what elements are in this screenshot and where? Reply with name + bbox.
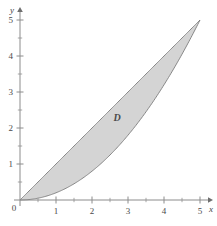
x-tick-label: 2: [90, 206, 95, 216]
y-tick-label: 3: [9, 87, 14, 97]
x-tick-label: 3: [126, 206, 131, 216]
x-tick-label: 5: [198, 206, 203, 216]
region-label-D: D: [113, 112, 121, 123]
y-tick-label: 4: [9, 51, 14, 61]
y-tick-label: 1: [9, 159, 14, 169]
y-axis-arrow-icon: [17, 7, 23, 12]
x-tick-label: 1: [54, 206, 59, 216]
y-tick-label: 2: [9, 123, 14, 133]
x-axis-label: x: [208, 204, 213, 214]
chart-figure: 12345123450 x y D: [0, 0, 217, 226]
plot-canvas: 12345123450 x y D: [0, 0, 217, 226]
upper-boundary-curve: [20, 20, 200, 200]
x-tick-label: 4: [162, 206, 167, 216]
x-axis-arrow-icon: [208, 197, 213, 203]
shaded-region-D: [20, 20, 200, 200]
y-axis-label: y: [9, 5, 14, 15]
origin-label: 0: [12, 203, 17, 213]
y-tick-label: 5: [9, 15, 14, 25]
